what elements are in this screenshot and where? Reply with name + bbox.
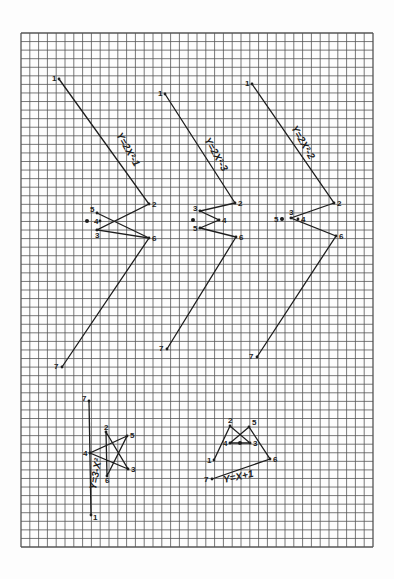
- point-label: 7: [82, 394, 87, 403]
- point-label: 6: [339, 232, 344, 241]
- point-label: 6: [273, 455, 278, 464]
- point-label: 1: [93, 513, 98, 522]
- plot-point-6: [269, 458, 272, 461]
- point-label: 3: [95, 231, 100, 240]
- plot-point-5: [126, 435, 129, 438]
- point-label: 7: [159, 344, 164, 353]
- plot-point-3: [290, 217, 293, 220]
- plot-point-4: [229, 442, 232, 445]
- plot-point-7: [88, 400, 91, 403]
- plot-point-4: [89, 452, 92, 455]
- point-label: 7: [204, 475, 209, 484]
- plot-point-1: [213, 459, 216, 462]
- point-label: 4: [94, 217, 99, 226]
- plot-point-1: [90, 514, 93, 517]
- point-label: 3: [253, 439, 258, 448]
- origin-dot: [191, 218, 195, 222]
- plot-point-5: [248, 426, 251, 429]
- point-label: 5: [90, 205, 95, 214]
- plot-point-6: [335, 235, 338, 238]
- point-label: 5: [252, 418, 257, 427]
- plot-point-2: [148, 203, 151, 206]
- point-label: 4: [83, 449, 88, 458]
- point-label: 2: [228, 416, 233, 425]
- point-label: 3: [193, 204, 198, 213]
- plot-point-3: [127, 468, 130, 471]
- point-label: 5: [274, 215, 279, 224]
- plot-point-7: [211, 478, 214, 481]
- plot-point-7: [166, 348, 169, 351]
- point-label: 5: [193, 224, 198, 233]
- plot-point-5: [96, 212, 99, 215]
- plot-point-4: [297, 218, 300, 221]
- plot-point-6: [148, 237, 151, 240]
- plot-point-3: [199, 210, 202, 213]
- plot-point-7: [61, 366, 64, 369]
- point-label: 2: [238, 199, 243, 208]
- plot-point-7: [256, 356, 259, 359]
- point-label: 3: [131, 465, 136, 474]
- point-label: 6: [239, 233, 244, 242]
- graph-grid: [21, 33, 373, 547]
- point-label: 4: [301, 215, 306, 224]
- point-label: 4: [222, 216, 227, 225]
- plot-point-2: [229, 425, 232, 428]
- point-label: 2: [104, 423, 109, 432]
- point-label: 2: [152, 200, 157, 209]
- origin-dot: [85, 219, 89, 223]
- point-label: 7: [54, 362, 59, 371]
- point-label: 2: [337, 199, 342, 208]
- origin-dot: [238, 441, 242, 445]
- plot-point-3: [249, 442, 252, 445]
- point-label: 5: [130, 431, 135, 440]
- plot-point-4: [218, 219, 221, 222]
- point-label: 6: [152, 234, 157, 243]
- plot-point-4: [99, 220, 102, 223]
- point-label: 7: [249, 352, 254, 361]
- point-label: 1: [207, 456, 212, 465]
- plot-point-1: [251, 83, 254, 86]
- point-label: 1: [245, 79, 250, 88]
- plot-point-5: [199, 227, 202, 230]
- plot-point-1: [58, 78, 61, 81]
- plot-point-2: [234, 202, 237, 205]
- origin-dot: [280, 217, 284, 221]
- point-label: 6: [105, 476, 110, 485]
- point-label: 4: [223, 439, 228, 448]
- graph-paper-sheet: 1234567Y=2X²-11234567Y=2X²-31234567Y=2X²…: [0, 0, 394, 579]
- plot-point-2: [333, 202, 336, 205]
- point-label: 1: [158, 89, 163, 98]
- plot-point-6: [235, 236, 238, 239]
- point-label: 1: [52, 74, 57, 83]
- plot-point-1: [164, 93, 167, 96]
- point-label: 3: [289, 208, 294, 217]
